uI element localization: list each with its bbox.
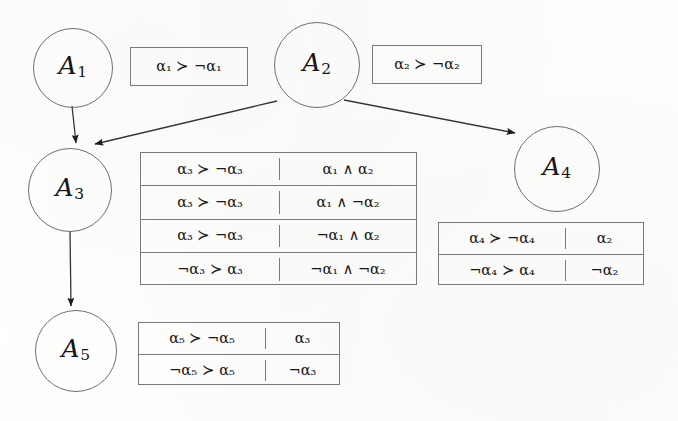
table-row: α₄ ≻ ¬α₄ α₂ [439,223,643,255]
node-a5[interactable]: A5 [35,310,117,392]
rule-a3-r1-right: α₁ ∧ α₂ [322,162,373,177]
rule-table-a4: α₄ ≻ ¬α₄ α₂ ¬α₄ ≻ α₄ ¬α₂ [438,222,644,285]
table-row: ¬α₃ ≻ α₃ ¬α₁ ∧ ¬α₂ [141,253,416,286]
rule-a2-formula: α₂ ≻ ¬α₂ [394,57,460,72]
table-row: ¬α₅ ≻ α₅ ¬α₃ [139,355,339,387]
node-a2[interactable]: A2 [274,22,360,108]
rule-a3-r2-right: α₁ ∧ ¬α₂ [316,195,379,210]
table-row: ¬α₄ ≻ α₄ ¬α₂ [439,255,643,287]
rule-table-a5: α₅ ≻ ¬α₅ α₃ ¬α₅ ≻ α₅ ¬α₃ [138,322,340,385]
rule-a4-r1-left: α₄ ≻ ¬α₄ [469,231,535,246]
rule-a3-r2-left: α₃ ≻ ¬α₃ [177,195,243,210]
node-a2-label: A2 [303,50,332,78]
table-row: α₅ ≻ ¬α₅ α₃ [139,323,339,355]
edge-a2-to-a4 [344,100,515,133]
rule-box-a2: α₂ ≻ ¬α₂ [372,45,482,84]
rule-a3-r3-right: ¬α₁ ∧ α₂ [316,228,379,243]
rule-a5-r2-left: ¬α₅ ≻ α₅ [169,363,235,378]
rule-a4-r1-right: α₂ [597,231,613,246]
table-row: α₃ ≻ ¬α₃ ¬α₁ ∧ α₂ [141,220,416,253]
node-a3-label: A3 [56,175,85,203]
rule-a3-r4-left: ¬α₃ ≻ α₃ [177,262,243,277]
figure-canvas: A1 A2 A3 A4 A5 α₁ ≻ ¬α₁ α₂ ≻ ¬α₂ [0,0,678,421]
rule-a1-formula: α₁ ≻ ¬α₁ [156,59,222,74]
edge-a3-to-a5 [70,231,71,306]
edge-a1-to-a3 [72,106,76,143]
rule-table-a3: α₃ ≻ ¬α₃ α₁ ∧ α₂ α₃ ≻ ¬α₃ α₁ ∧ ¬α₂ α₃ ≻ … [140,152,417,285]
rule-a3-r3-left: α₃ ≻ ¬α₃ [177,228,243,243]
node-a1[interactable]: A1 [33,28,113,108]
node-a4[interactable]: A4 [514,126,600,212]
rule-a4-r2-right: ¬α₂ [591,263,619,278]
rule-a4-r2-left: ¬α₄ ≻ α₄ [469,263,535,278]
rule-a3-r4-right: ¬α₁ ∧ ¬α₂ [310,262,385,277]
rule-a5-r1-right: α₃ [295,331,311,346]
node-a4-label: A4 [543,154,572,182]
node-a5-label: A5 [62,336,91,364]
edge-a2-to-a3 [95,101,277,144]
node-a3[interactable]: A3 [28,148,112,232]
table-row: α₃ ≻ ¬α₃ α₁ ∧ α₂ [141,153,416,186]
node-a1-label: A1 [59,53,88,81]
rule-a5-r1-left: α₅ ≻ ¬α₅ [169,331,235,346]
rule-box-a1: α₁ ≻ ¬α₁ [130,47,248,86]
table-row: α₃ ≻ ¬α₃ α₁ ∧ ¬α₂ [141,186,416,219]
rule-a3-r1-left: α₃ ≻ ¬α₃ [177,162,243,177]
rule-a5-r2-right: ¬α₃ [289,363,317,378]
